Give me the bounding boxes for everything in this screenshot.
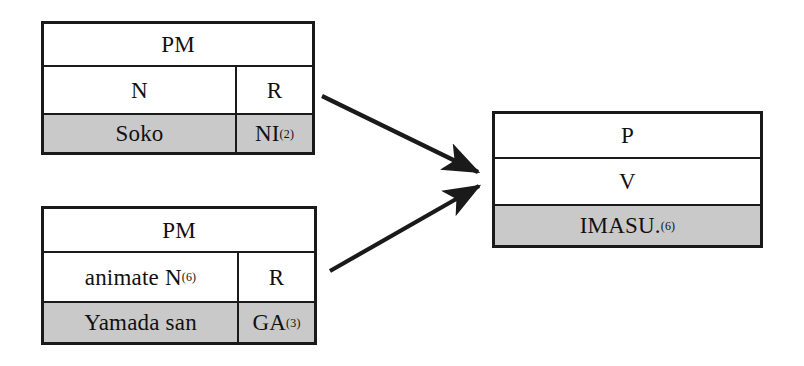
cell-category-r: R	[237, 253, 314, 301]
cell-pm-label: PM	[44, 209, 314, 251]
cell-category-animate-n: animate N(6)	[44, 253, 237, 301]
cell-lexical-yamada-san: Yamada san	[44, 303, 237, 342]
structure-box-yamada-san-ga: PM animate N(6) R Yamada san GA(3)	[41, 206, 317, 345]
lexical-ni-text: NI	[255, 122, 280, 145]
row-category: animate N(6) R	[44, 251, 314, 301]
cell-pm-label: PM	[44, 24, 312, 65]
row-lexical: IMASU.(6)	[495, 204, 760, 245]
row-pm: PM	[44, 209, 314, 251]
structure-box-imasu: P V IMASU.(6)	[492, 111, 763, 248]
row-pm: PM	[44, 24, 312, 65]
cell-lexical-ni: NI(2)	[235, 115, 312, 152]
row-lexical: Soko NI(2)	[44, 113, 312, 152]
cell-lexical-soko: Soko	[44, 115, 235, 152]
cell-lexical-ga: GA(3)	[237, 303, 314, 342]
diagram-canvas: PM N R Soko NI(2) PM animate N(6) R Yama…	[0, 0, 804, 366]
row-p: P	[495, 114, 760, 157]
arrow-lower-left-to-right	[330, 186, 479, 271]
cell-category-r: R	[235, 67, 312, 113]
structure-box-soko-ni: PM N R Soko NI(2)	[41, 21, 315, 155]
cell-p-label: P	[495, 114, 760, 157]
lexical-ga-text: GA	[252, 311, 286, 334]
category-animate-n-text: animate N	[85, 266, 182, 289]
row-lexical: Yamada san GA(3)	[44, 301, 314, 342]
arrow-upper-left-to-right	[322, 96, 478, 172]
cell-v-label: V	[495, 159, 760, 204]
row-v: V	[495, 157, 760, 204]
cell-category-n: N	[44, 67, 235, 113]
row-category: N R	[44, 65, 312, 113]
lexical-imasu-text: IMASU.	[580, 214, 661, 237]
cell-lexical-imasu: IMASU.(6)	[495, 206, 760, 245]
